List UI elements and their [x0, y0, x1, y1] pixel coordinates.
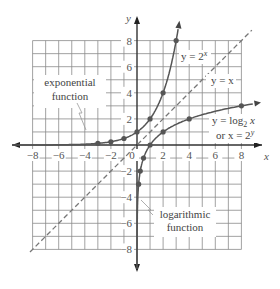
x-tick-label: −4 — [79, 149, 91, 161]
y-axis-arrow-up — [134, 16, 140, 24]
data-point-exponential — [134, 129, 139, 134]
data-point-logarithmic — [141, 155, 146, 160]
y-tick-label: 8 — [127, 35, 133, 47]
x-tick-label: −6 — [53, 149, 65, 161]
y-tick-label: −8 — [120, 243, 132, 255]
data-point-exponential — [121, 136, 126, 141]
data-point-exponential — [161, 90, 166, 95]
exponential-label-line2: function — [52, 90, 89, 102]
x-tick-label: 2 — [160, 149, 166, 161]
function-graph: xy−8−6−4−2024688642−2−4−6−8 exponential … — [0, 0, 280, 289]
x-tick-label: 6 — [213, 149, 219, 161]
logarithmic-label-line1: logarithmic — [160, 208, 211, 220]
exponential-label-line1: exponential — [44, 76, 95, 88]
data-point-logarithmic — [138, 169, 143, 174]
logarithmic-pointer — [141, 200, 153, 215]
data-point-exponential — [95, 141, 100, 146]
y-axis-label: y — [125, 12, 131, 24]
data-point-exponential — [108, 139, 113, 144]
exponential-arrow — [175, 21, 181, 29]
data-point-exponential — [147, 116, 152, 121]
data-point-logarithmic — [239, 103, 244, 108]
identity-equation: y = x — [211, 74, 234, 86]
x-tick-label: 4 — [186, 149, 192, 161]
logarithmic-label-line2: function — [167, 221, 204, 233]
y-tick-label: −6 — [120, 217, 132, 229]
logarithmic-arrow — [254, 101, 261, 107]
y-tick-label: −2 — [120, 165, 132, 177]
data-point-exponential — [174, 38, 179, 43]
data-point-logarithmic — [161, 129, 166, 134]
y-tick-label: 2 — [127, 113, 133, 125]
y-tick-label: −4 — [120, 191, 132, 203]
y-tick-label: 4 — [127, 87, 133, 99]
x-tick-label: −2 — [105, 149, 117, 161]
x-tick-label: 8 — [239, 149, 245, 161]
exponential-equation: y = 2x — [181, 49, 208, 62]
y-tick-label: 6 — [127, 61, 133, 73]
x-tick-label: 0 — [129, 149, 135, 161]
data-point-logarithmic — [187, 116, 192, 121]
x-axis-label: x — [263, 150, 269, 162]
data-point-logarithmic — [136, 182, 141, 187]
x-tick-label: −8 — [27, 149, 39, 161]
data-point-logarithmic — [147, 142, 152, 147]
log-equation-line2: or x = 2y — [216, 128, 255, 141]
